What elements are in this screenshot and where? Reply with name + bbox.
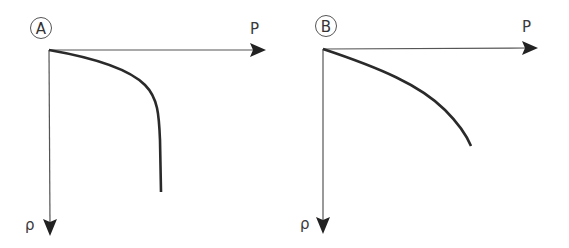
panel-b-p-axis <box>323 48 528 49</box>
panel-b-curve <box>323 49 471 146</box>
panel-a-badge: A <box>30 17 52 39</box>
panel-b <box>316 41 538 234</box>
panel-b-p-label: P <box>522 20 531 35</box>
panel-a-rho-label: ρ <box>25 218 35 233</box>
panel-a-p-label: P <box>250 22 259 37</box>
panel-b-badge: B <box>315 15 337 37</box>
panel-b-rho-label: ρ <box>300 217 310 232</box>
diagram-canvas <box>0 0 569 248</box>
panel-a-curve <box>49 50 161 192</box>
panel-a <box>43 43 266 236</box>
panel-a-rho-axis <box>49 50 50 226</box>
